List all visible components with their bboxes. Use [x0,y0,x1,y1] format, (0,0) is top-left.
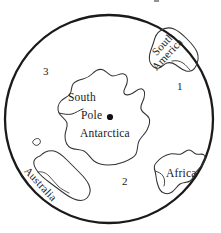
polar-world-map-figure: South Pole Antarctica South America Afri… [0,0,221,233]
region-number-2: 2 [122,176,128,187]
island-outline [33,139,41,146]
africa-label: Africa [166,168,197,180]
region-number-3: 3 [43,66,49,77]
antarctica-label: Antarctica [80,128,130,140]
south-pole-label-line1: South [68,92,96,104]
south-pole-label-line2: Pole [81,110,102,122]
cropped-top-artifact [154,0,159,2]
region-number-1: 1 [177,81,183,92]
antarctica-inlet-left [59,109,83,114]
south-pole-dot [107,114,113,120]
antarctica-outline [58,70,150,165]
map-graphics [0,0,221,233]
